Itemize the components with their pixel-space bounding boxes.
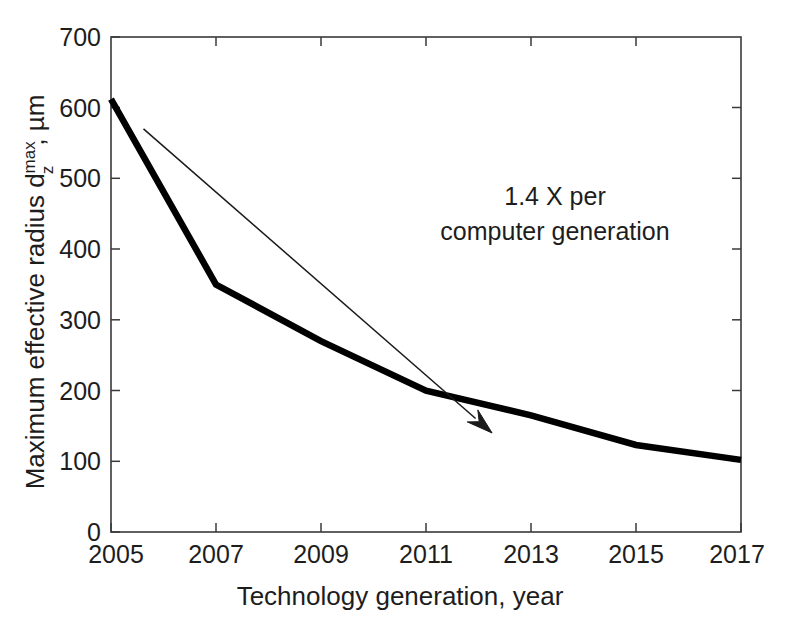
y-tick-label: 200 — [59, 377, 101, 405]
x-axis-ticks — [111, 523, 741, 532]
y-tick-label: 500 — [59, 164, 101, 192]
trend-arrow-head — [467, 410, 492, 433]
plot-frame — [111, 37, 741, 532]
trend-annotation-text: 1.4 X per computer generation — [440, 182, 669, 245]
y-tick-labels: 0 100 200 300 400 500 600 700 — [59, 23, 101, 546]
x-tick-label: 2013 — [503, 540, 559, 568]
trend-annotation-line1: 1.4 X per — [504, 182, 605, 210]
x-tick-label: 2005 — [88, 540, 144, 568]
y-axis-title-subscript: z — [38, 166, 57, 175]
x-tick-label: 2015 — [608, 540, 664, 568]
y-tick-label: 600 — [59, 94, 101, 122]
y-tick-label: 300 — [59, 306, 101, 334]
chart-figure: 0 100 200 300 400 500 600 700 2005 2007 … — [0, 0, 789, 619]
x-tick-label: 2009 — [293, 540, 349, 568]
trend-arrow — [144, 129, 493, 433]
x-axis-ticks-top — [216, 37, 636, 46]
svg-text:Maximum effective radius dmaxz: Maximum effective radius dmaxz, µm — [20, 95, 57, 490]
y-tick-label: 400 — [59, 235, 101, 263]
x-tick-label: 2011 — [399, 540, 453, 568]
y-axis-title-tail: , µm — [20, 95, 50, 146]
y-tick-label: 100 — [59, 447, 101, 475]
x-tick-labels: 2005 2007 2009 2011 2013 2015 2017 — [88, 540, 765, 568]
line-chart: 0 100 200 300 400 500 600 700 2005 2007 … — [0, 0, 789, 619]
x-tick-label: 2017 — [709, 540, 765, 568]
y-axis-title-main: Maximum effective radius d — [20, 173, 50, 489]
y-axis-ticks-right — [732, 108, 741, 462]
trend-annotation-line2: computer generation — [440, 217, 669, 245]
data-series-line — [111, 99, 741, 460]
x-tick-label: 2007 — [188, 540, 244, 568]
y-tick-label: 700 — [59, 23, 101, 51]
y-axis-title: Maximum effective radius dmaxz, µm — [20, 95, 57, 490]
trend-arrow-line — [144, 129, 476, 419]
x-axis-title: Technology generation, year — [237, 581, 564, 611]
